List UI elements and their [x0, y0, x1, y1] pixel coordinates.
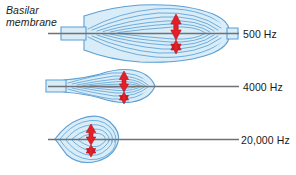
wave-row-4000	[46, 70, 239, 105]
wave-row-500	[48, 5, 239, 63]
diagram-page: Basilar membrane 500 Hz 4000 Hz 20,000 H…	[0, 0, 296, 175]
frequency-label-4000hz: 4000 Hz	[243, 81, 283, 93]
wave-row-20000	[48, 116, 239, 162]
frequency-label-500hz: 500 Hz	[243, 28, 277, 40]
frequency-label-20000hz: 20,000 Hz	[241, 134, 290, 146]
basilar-membrane-caption: Basilar membrane	[6, 4, 57, 28]
